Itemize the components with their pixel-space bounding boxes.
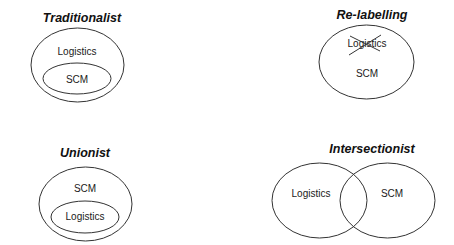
re-labelling-panel: Re-labelling Logistics SCM <box>319 8 414 99</box>
traditionalist-panel: Traditionalist Logistics SCM <box>31 11 124 102</box>
unionist-panel: Unionist SCM Logistics <box>39 146 132 241</box>
traditionalist-title: Traditionalist <box>43 11 122 25</box>
unionist-inner-label: Logistics <box>66 211 105 222</box>
unionist-title: Unionist <box>60 146 111 160</box>
logistics-outer-ellipse <box>31 28 124 102</box>
scm-ellipse <box>319 25 414 99</box>
logistics-ellipse <box>272 163 367 238</box>
traditionalist-outer-label: Logistics <box>58 46 97 57</box>
scm-ellipse <box>340 163 435 238</box>
re-labelling-title: Re-labelling <box>337 8 408 22</box>
traditionalist-inner-label: SCM <box>66 74 88 85</box>
scm-outer-ellipse <box>39 167 132 241</box>
intersectionist-left-label: Logistics <box>292 188 331 199</box>
logistics-scm-perspectives-diagram: Traditionalist Logistics SCM Re-labellin… <box>0 0 454 245</box>
intersectionist-panel: Intersectionist Logistics SCM <box>272 142 435 238</box>
re-labelling-main-label: SCM <box>356 68 378 79</box>
intersectionist-right-label: SCM <box>381 188 403 199</box>
unionist-outer-label: SCM <box>74 183 96 194</box>
intersectionist-title: Intersectionist <box>329 142 415 156</box>
